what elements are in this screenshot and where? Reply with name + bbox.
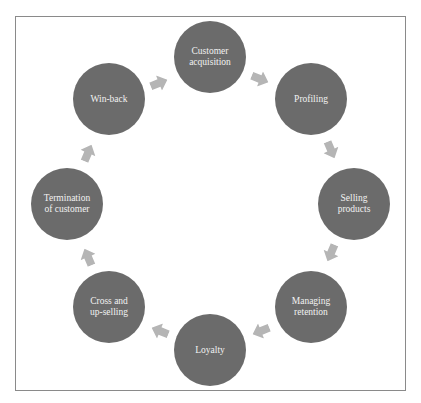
node-label: Customer acquisition [189,46,231,68]
node-selling-products: Selling products [318,168,390,240]
node-profiling: Profiling [275,63,347,135]
node-termination-of-customer: Termination of customer [31,168,103,240]
node-label: Cross and up-selling [90,296,128,318]
node-win-back: Win-back [73,63,145,135]
node-label: Win-back [90,94,127,105]
node-label: Selling products [338,193,371,215]
node-label: Managing retention [292,296,331,318]
node-customer-acquisition: Customer acquisition [174,21,246,93]
node-label: Profiling [294,94,328,105]
node-label: Termination of customer [44,193,90,215]
node-cross-and-up-selling: Cross and up-selling [73,271,145,343]
node-label: Loyalty [195,345,225,356]
node-loyalty: Loyalty [174,314,246,386]
node-managing-retention: Managing retention [275,271,347,343]
